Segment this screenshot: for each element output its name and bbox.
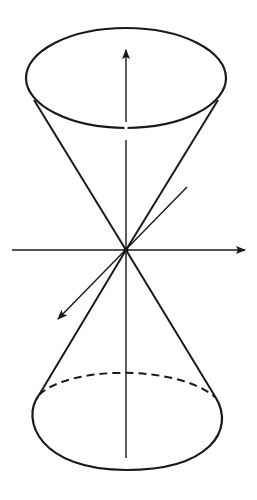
cone-line-right-lower bbox=[126, 250, 216, 398]
depth-axis bbox=[58, 187, 187, 319]
apex-point bbox=[124, 248, 129, 253]
bottom-ellipse-back bbox=[39, 373, 216, 398]
double-cone-diagram bbox=[0, 0, 257, 500]
bottom-ellipse-front bbox=[32, 395, 222, 470]
